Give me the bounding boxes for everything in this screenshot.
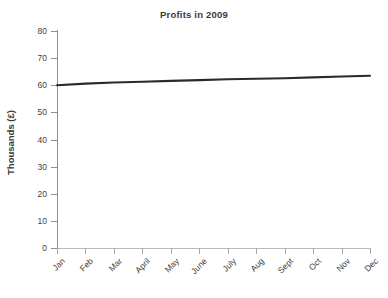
- y-axis-tick: [51, 167, 57, 168]
- series-line-profits: [57, 76, 370, 85]
- x-axis-tick-label: May: [162, 256, 180, 274]
- y-axis-tick-label: 40: [17, 135, 47, 145]
- y-axis-tick-label: 10: [17, 216, 47, 226]
- y-axis-tick: [51, 140, 57, 141]
- y-axis-tick: [51, 58, 57, 59]
- x-axis-tick: [228, 248, 229, 254]
- y-axis-tick: [51, 85, 57, 86]
- x-axis-tick-label: Sept: [275, 256, 294, 275]
- x-axis-tick-label: Feb: [78, 256, 95, 273]
- x-axis-line: [57, 248, 371, 249]
- line-chart: Profits in 2009 Thousands (£) 0102030405…: [0, 0, 388, 298]
- x-axis-tick-label: Aug: [248, 256, 266, 274]
- x-axis-tick: [199, 248, 200, 254]
- y-axis-tick-label: 30: [17, 162, 47, 172]
- x-axis-tick: [57, 248, 58, 254]
- x-axis-tick: [342, 248, 343, 254]
- y-axis-tick: [51, 194, 57, 195]
- y-axis-tick: [51, 112, 57, 113]
- x-axis-tick: [114, 248, 115, 254]
- x-axis-tick: [142, 248, 143, 254]
- y-axis-tick-label: 80: [17, 26, 47, 36]
- x-axis-tick-label: June: [189, 256, 209, 276]
- x-axis-tick: [256, 248, 257, 254]
- x-axis-tick-label: April: [133, 256, 152, 275]
- x-axis-tick-label: Mar: [107, 256, 124, 273]
- x-axis-tick: [313, 248, 314, 254]
- y-axis-tick-label: 70: [17, 53, 47, 63]
- y-axis-line: [57, 30, 58, 249]
- y-axis-tick: [51, 221, 57, 222]
- y-axis-tick-label: 60: [17, 80, 47, 90]
- series-layer: [0, 0, 388, 298]
- y-axis-tick-label: 50: [17, 107, 47, 117]
- x-axis-tick-label: July: [220, 256, 238, 274]
- x-axis-tick-label: Nov: [334, 256, 352, 274]
- x-axis-tick: [171, 248, 172, 254]
- x-axis-tick: [370, 248, 371, 254]
- x-axis-tick: [285, 248, 286, 254]
- x-axis-tick-label: Dec: [362, 256, 380, 274]
- x-axis-tick-label: Jan: [50, 256, 67, 273]
- y-axis-title: Thousands (£): [2, 62, 18, 222]
- y-axis-title-text: Thousands (£): [5, 110, 16, 175]
- y-axis-tick-label: 0: [17, 243, 47, 253]
- chart-title: Profits in 2009: [0, 9, 388, 20]
- x-axis-tick-label: Oct: [307, 256, 323, 272]
- y-axis-tick-label: 20: [17, 189, 47, 199]
- x-axis-tick: [85, 248, 86, 254]
- y-axis-tick: [51, 31, 57, 32]
